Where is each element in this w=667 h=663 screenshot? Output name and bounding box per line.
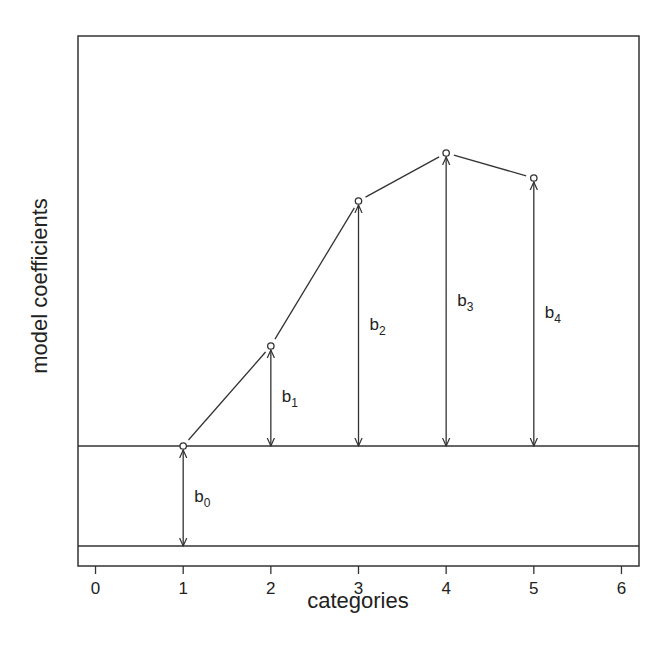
x-tick-label: 5 — [529, 579, 538, 598]
data-point — [180, 443, 186, 449]
coefficient-arrows — [183, 157, 534, 546]
coefficient-label-b3: b3 — [457, 291, 473, 314]
data-point — [268, 343, 274, 349]
coefficient-chart: b0b1b2b3b4 0123456 categories model coef… — [0, 0, 667, 663]
series-segment — [454, 155, 526, 176]
x-tick-label: 2 — [266, 579, 275, 598]
coefficient-labels: b0b1b2b3b4 — [194, 291, 561, 511]
data-point — [531, 175, 537, 181]
reference-lines — [78, 446, 639, 546]
x-axis-title: categories — [307, 588, 409, 613]
series-segment — [188, 352, 265, 440]
x-tick-label: 4 — [441, 579, 450, 598]
x-tick-label: 6 — [617, 579, 626, 598]
x-tick-label: 0 — [91, 579, 100, 598]
coefficient-label-b2: b2 — [370, 315, 386, 338]
data-point — [355, 198, 361, 204]
coefficient-label-b4: b4 — [545, 303, 561, 326]
coefficient-label-b1: b1 — [282, 387, 298, 410]
data-point — [443, 150, 449, 156]
x-tick-label: 1 — [178, 579, 187, 598]
series-segment — [366, 157, 440, 197]
coefficient-label-b0: b0 — [194, 487, 210, 510]
y-axis-title: model coefficients — [27, 198, 52, 374]
series-segment — [275, 208, 354, 339]
